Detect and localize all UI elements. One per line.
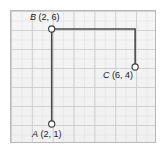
point-label-b-coords: (2, 6) — [36, 12, 60, 22]
point-marker-a — [49, 121, 55, 127]
figure-canvas: B (2, 6) C (6, 4) A (2, 1) — [0, 0, 166, 151]
point-marker-b — [49, 26, 55, 32]
point-label-b: B (2, 6) — [30, 12, 60, 23]
point-label-a-coords: (2, 1) — [38, 129, 62, 139]
point-label-c: C (6, 4) — [103, 70, 133, 81]
point-label-c-coords: (6, 4) — [110, 70, 134, 80]
point-label-a: A (2, 1) — [32, 129, 62, 140]
path-and-markers-layer — [0, 0, 166, 151]
